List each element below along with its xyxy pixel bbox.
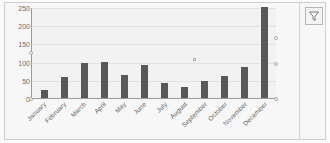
bar-slot (134, 8, 154, 98)
x-axis: JanuaryFebruaryMarchAprilMayJuneJulyAugu… (31, 100, 276, 142)
y-axis-tick-label: 200 (18, 23, 30, 30)
bar-june[interactable] (141, 65, 148, 98)
x-axis-label-slot: July (153, 100, 173, 142)
resize-handle-left-middle[interactable] (29, 51, 33, 55)
bar-series (32, 8, 276, 98)
bar-slot (214, 8, 234, 98)
x-axis-label-slot: December (254, 100, 274, 142)
funnel-icon (309, 11, 319, 22)
x-axis-tick-label: April (94, 101, 108, 115)
x-axis-label-slot: February (53, 100, 73, 142)
bar-july[interactable] (161, 83, 168, 98)
bar-slot (54, 8, 74, 98)
bar-chart-panel: 050100150200250 JanuaryFebruaryMarchApri… (0, 0, 330, 143)
resize-handle-right-middle[interactable] (274, 62, 278, 66)
bar-slot (114, 8, 134, 98)
pane-divider (299, 3, 300, 139)
bar-may[interactable] (121, 75, 128, 98)
filter-button[interactable] (305, 7, 323, 25)
x-axis-label-slot: May (113, 100, 133, 142)
x-axis-tick-label: July (155, 101, 168, 114)
bar-december[interactable] (261, 7, 268, 98)
y-axis: 050100150200250 (6, 8, 30, 99)
bar-slot (174, 8, 194, 98)
bar-september[interactable] (201, 81, 208, 98)
bar-slot (194, 8, 214, 98)
y-axis-tick-label: 150 (18, 41, 30, 48)
bar-slot (94, 8, 114, 98)
plot-area (31, 8, 276, 99)
bar-november[interactable] (241, 67, 248, 98)
bar-february[interactable] (61, 77, 68, 98)
y-axis-tick-label: 100 (18, 59, 30, 66)
resize-handle-right-top[interactable] (274, 36, 278, 40)
bar-slot (34, 8, 54, 98)
bar-august[interactable] (181, 87, 188, 98)
bar-slot (254, 8, 274, 98)
bar-april[interactable] (101, 62, 108, 98)
x-axis-label-slot: March (73, 100, 93, 142)
bar-slot (154, 8, 174, 98)
y-axis-tick-label: 250 (18, 5, 30, 12)
bar-march[interactable] (81, 63, 88, 98)
bar-january[interactable] (41, 90, 48, 98)
y-axis-tick-label: 50 (22, 77, 30, 84)
bar-slot (234, 8, 254, 98)
chart-center-marker (193, 58, 196, 61)
bar-slot (74, 8, 94, 98)
x-axis-label-slot: April (93, 100, 113, 142)
x-axis-tick-label: May (114, 101, 128, 115)
x-axis-tick-label: June (133, 101, 148, 116)
x-axis-tick-label: March (70, 101, 88, 119)
bar-october[interactable] (221, 76, 228, 98)
x-axis-label-slot: June (133, 100, 153, 142)
